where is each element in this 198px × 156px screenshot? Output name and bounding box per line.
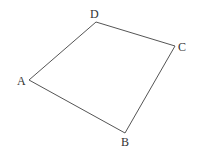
vertex-label-c: C (178, 40, 186, 54)
edge-ab (29, 80, 125, 133)
vertex-label-a: A (17, 74, 26, 88)
edge-cd (96, 22, 175, 46)
edge-bc (125, 46, 175, 133)
vertex-label-d: D (90, 7, 99, 21)
vertex-label-b: B (121, 135, 129, 149)
quadrilateral-diagram: A B C D (0, 0, 198, 156)
edge-da (29, 22, 96, 80)
